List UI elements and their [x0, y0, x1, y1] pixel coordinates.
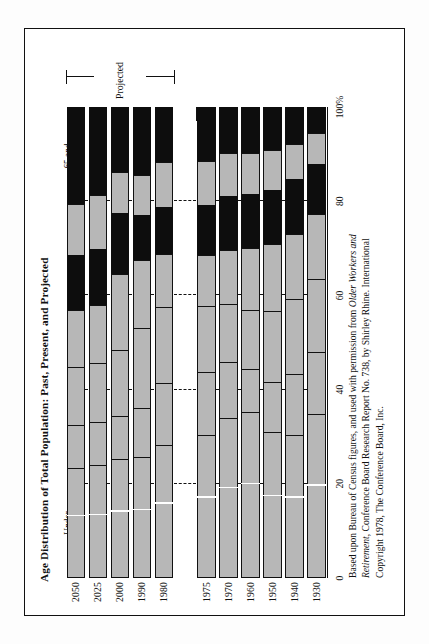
bar-segment-1940-55-64: [285, 144, 304, 180]
minor-tick: [282, 200, 285, 201]
bar-segment-1980-65-and-over: [155, 107, 174, 162]
bar-segment-1980-Under-18-years: [155, 445, 174, 578]
bar-segment-1980-35-44: [155, 254, 174, 307]
bar-segment-1960-35-44: [241, 248, 260, 310]
projected-bracket-line-bottom: [146, 76, 174, 77]
x-axis-line: [327, 107, 328, 578]
projected-bracket-line-top: [66, 76, 94, 77]
gap-dashed-connector: [174, 200, 196, 201]
bar-segment-2050-45-54: [67, 255, 86, 310]
bar-segment-1975-25-34: [197, 306, 216, 372]
year-label-1980: 1980: [158, 582, 169, 616]
minor-tick: [107, 200, 110, 201]
x-tick-label-40: 40: [334, 385, 345, 395]
bar-segment-1990-45-54: [133, 215, 152, 260]
minor-tick: [216, 200, 219, 201]
minor-tick: [260, 389, 263, 390]
minor-tick: [282, 483, 285, 484]
bar-segment-1970-25-34: [219, 304, 238, 362]
bar-segment-2050-65-and-over: [67, 107, 86, 204]
year-label-1960: 1960: [245, 582, 256, 616]
segment-hairline-2050: [67, 515, 86, 516]
bar-segment-1975-45-54: [197, 205, 216, 255]
segment-hairline-1930: [307, 485, 326, 486]
page-canvas: Age Distribution of Total Population: Pa…: [0, 0, 429, 644]
bar-segment-1940-18-24: [285, 374, 304, 435]
bar-segment-2025-18-24: [89, 422, 108, 465]
gap-dashed-connector: [174, 389, 196, 390]
minor-tick: [238, 294, 241, 295]
bar-segment-1940-35-44: [285, 234, 304, 300]
bar-segment-1975-65-and-over: [197, 107, 216, 161]
bar-segment-2000-45-54: [111, 213, 130, 275]
bar-segment-1975-18-24: [197, 372, 216, 435]
minor-tick: [107, 294, 110, 295]
minor-tick: [107, 483, 110, 484]
segment-hairline-1970: [219, 487, 238, 488]
x-tick-label-20: 20: [334, 479, 345, 489]
segment-hairline-1940: [285, 496, 304, 497]
bar-segment-1960-65-and-over: [241, 107, 260, 153]
minor-tick: [151, 294, 154, 295]
caption-text-3: Copyright 1978, The Conference Board, In…: [374, 406, 385, 578]
x-tick-label-80: 80: [334, 196, 345, 206]
year-label-2025: 2025: [92, 582, 103, 616]
bar-2000: [111, 107, 130, 578]
bar-segment-1950-35-44: [263, 244, 282, 311]
x-tick-label-60: 60: [334, 291, 345, 301]
caption-text-1: Based upon Bureau of Census figures, and…: [347, 307, 358, 578]
bar-1950: [263, 107, 282, 578]
bar-segment-1980-25-34: [155, 307, 174, 383]
bar-segment-1960-45-54: [241, 194, 260, 247]
bar-1980: [155, 107, 174, 578]
bar-1940: [285, 107, 304, 578]
bar-segment-1970-35-44: [219, 250, 238, 304]
bar-segment-2000-55-64: [111, 172, 130, 213]
bar-segment-1930-35-44: [307, 214, 326, 279]
bar-1990: [133, 107, 152, 578]
minor-tick: [260, 483, 263, 484]
bar-1930: [307, 107, 326, 578]
bar-segment-2050-55-64: [67, 204, 86, 255]
bar-1960: [241, 107, 260, 578]
minor-tick: [260, 200, 263, 201]
minor-tick: [282, 294, 285, 295]
minor-tick: [85, 389, 88, 390]
bar-segment-1940-65-and-over: [285, 107, 304, 144]
caption-italic-2: Retirement: [360, 536, 371, 578]
bar-segment-1990-18-24: [133, 408, 152, 456]
bar-segment-1960-25-34: [241, 310, 260, 369]
bar-segment-2050-25-34: [67, 367, 86, 425]
year-label-1930: 1930: [311, 582, 322, 616]
caption-italic-1: Older Workers and: [347, 234, 358, 307]
bar-segment-1960-Under-18-years: [241, 412, 260, 578]
segment-hairline-1950: [263, 495, 282, 496]
projected-bracket-label: Projected: [114, 62, 125, 99]
minor-tick: [129, 200, 132, 201]
bar-segment-1970-45-54: [219, 196, 238, 250]
minor-tick: [282, 389, 285, 390]
minor-tick: [238, 200, 241, 201]
minor-tick: [151, 483, 154, 484]
minor-tick: [85, 200, 88, 201]
segment-hairline-1975: [197, 496, 216, 497]
bar-segment-1930-65-and-over: [307, 107, 326, 133]
bar-segment-2025-Under-18-years: [89, 465, 108, 578]
segment-hairline-1960: [241, 483, 260, 484]
bar-segment-2000-65-and-over: [111, 107, 130, 172]
x-tick-label-100pct: 100%: [334, 96, 345, 118]
bar-segment-1975-35-44: [197, 255, 216, 306]
bar-segment-1930-18-24: [307, 352, 326, 414]
bar-segment-2025-45-54: [89, 249, 108, 305]
minor-tick: [151, 200, 154, 201]
minor-tick: [107, 389, 110, 390]
bar-segment-2050-35-44: [67, 310, 86, 367]
bar-segment-2000-18-24: [111, 416, 130, 460]
bar-segment-2050-Under-18-years: [67, 468, 86, 578]
segment-hairline-2000: [111, 510, 130, 511]
minor-tick: [238, 389, 241, 390]
bar-segment-1930-25-34: [307, 279, 326, 352]
bar-segment-1970-65-and-over: [219, 107, 238, 153]
minor-tick: [304, 200, 307, 201]
year-label-1940: 1940: [289, 582, 300, 616]
